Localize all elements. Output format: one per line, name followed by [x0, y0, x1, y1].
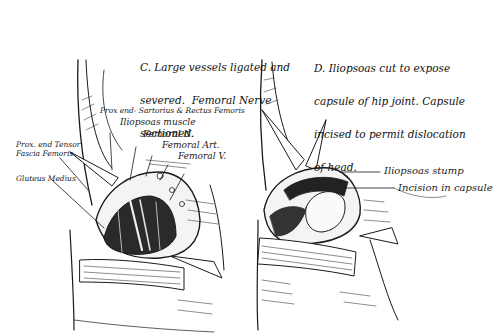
label-fascia-femoris: Fascia Femoris. — [16, 150, 76, 158]
panel-c-caption-line: C. Large vessels ligated and — [140, 62, 290, 73]
label-prox-end-tensor: Prox. end Tensor — [16, 141, 80, 149]
label-prox-end-sartorius-rectus-femoris: Prox end- Sartorius & Rectus Femoris — [100, 107, 245, 115]
label-incision-in-capsule: Incision in capsule — [398, 183, 493, 193]
panel-d-caption-line: capsule of hip joint. Capsule — [314, 96, 466, 107]
label-femoral-artery: Femoral Art. — [162, 141, 220, 150]
label-iliopsoas-stump: Iliopsoas stump — [384, 166, 464, 176]
panel-d-caption-line: D. Iliopsoas cut to expose — [314, 63, 466, 74]
panel-c-caption-line: severed. Femoral Nerve — [140, 95, 290, 106]
illustration-page: C. Large vessels ligated and severed. Fe… — [0, 0, 502, 336]
label-femoral-nerve: Femoral N. — [143, 130, 194, 139]
panel-d-caption-line: incised to permit dislocation — [314, 129, 466, 140]
label-femoral-vein: Femoral V. — [178, 152, 226, 161]
label-gluteus-medius: Gluteus Medius — [16, 175, 76, 183]
label-iliopsoas-muscle: Iliopsoas muscle — [120, 118, 196, 127]
